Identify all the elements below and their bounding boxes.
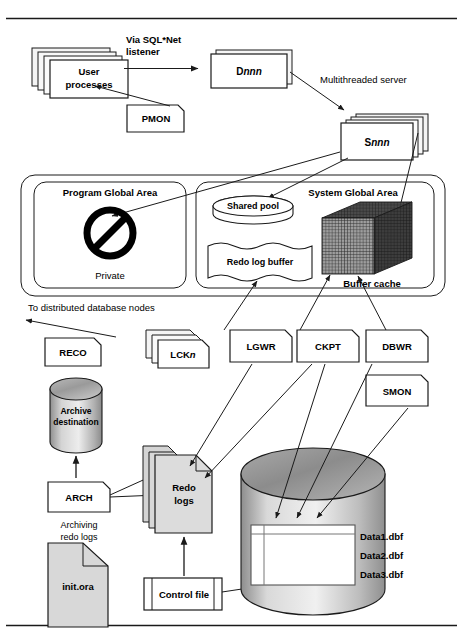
architecture-diagram: User processes PMON Via SQL*Net listener… (0, 0, 463, 639)
lgwr-box[interactable]: LGWR (230, 330, 292, 362)
dbwr-box[interactable]: DBWR (366, 330, 428, 362)
pga-caption: Private (95, 270, 125, 281)
redo-log-buffer-label: Redo log buffer (227, 257, 294, 267)
datafile-table-glyph (251, 525, 355, 585)
control-file-box[interactable]: Control file (144, 578, 222, 610)
server-process-label: Snnn (365, 137, 390, 148)
smon-label: SMON (383, 386, 412, 397)
database-cylinder[interactable]: Data1.dbf Data2.dbf Data3.dbf (241, 448, 404, 615)
sga-container: System Global Area Shared pool Redo log … (196, 182, 434, 289)
arrow-reco-to-distributed (26, 320, 116, 337)
server-process-box[interactable]: Snnn (341, 114, 428, 160)
pmon-label: PMON (142, 113, 171, 124)
lck-label: LCKn (170, 349, 196, 360)
mts-note-label: Multithreaded server (320, 74, 407, 85)
datafile-label-2: Data2.dbf (360, 550, 404, 561)
ckpt-box[interactable]: CKPT (297, 330, 359, 362)
sga-title: System Global Area (308, 187, 398, 198)
datafile-label-3: Data3.dbf (360, 569, 404, 580)
lck-box[interactable]: LCKn (146, 330, 209, 368)
dbwr-label: DBWR (382, 341, 412, 352)
redo-logs-label-1: Redo (172, 482, 196, 493)
init-ora-label: init.ora (62, 581, 94, 592)
smon-box[interactable]: SMON (366, 375, 428, 406)
dispatcher-label: Dnnn (236, 66, 262, 77)
user-processes-label-1: User (78, 66, 99, 77)
buffer-cache-cube[interactable]: Buffer cache (322, 202, 412, 289)
datafile-label-1: Data1.dbf (360, 531, 404, 542)
redo-logs-files[interactable]: Redo logs (143, 446, 212, 533)
pga-title: Program Global Area (63, 187, 158, 198)
control-file-label: Control file (159, 589, 209, 600)
reco-box[interactable]: RECO (45, 338, 101, 366)
no-entry-icon (87, 210, 133, 256)
archive-destination-label-2: destination (53, 417, 98, 427)
dispatcher-box[interactable]: Dnnn (211, 50, 292, 88)
redo-log-buffer[interactable]: Redo log buffer (208, 243, 312, 281)
ckpt-label: CKPT (315, 341, 341, 352)
buffer-cache-label: Buffer cache (343, 278, 401, 289)
arch-label: ARCH (65, 492, 93, 503)
reco-label: RECO (59, 347, 86, 358)
arrow-lgwr-to-redologs (190, 364, 252, 466)
pmon-box[interactable]: PMON (127, 105, 184, 132)
shared-pool-label: Shared pool (227, 201, 279, 211)
init-ora-file[interactable]: init.ora (48, 543, 108, 627)
figure-canvas: User processes PMON Via SQL*Net listener… (0, 0, 463, 639)
lgwr-label: LGWR (246, 341, 275, 352)
distributed-nodes-note: To distributed database nodes (28, 302, 155, 313)
pga-container: Program Global Area Private (34, 182, 186, 288)
archive-destination-label-1: Archive (60, 406, 91, 416)
shared-pool[interactable]: Shared pool (213, 196, 293, 224)
sqlnet-note-line2: listener (126, 46, 160, 57)
sqlnet-note-line1: Via SQL*Net (126, 34, 182, 45)
archiving-note-line2: redo logs (60, 532, 98, 542)
redo-logs-label-2: logs (174, 495, 194, 506)
arch-box[interactable]: ARCH (48, 482, 110, 512)
arrow-ckpt-to-buffer-cache (300, 275, 330, 330)
archiving-note-line1: Archiving (60, 520, 97, 530)
archive-destination-cylinder[interactable]: Archive destination (50, 378, 102, 453)
